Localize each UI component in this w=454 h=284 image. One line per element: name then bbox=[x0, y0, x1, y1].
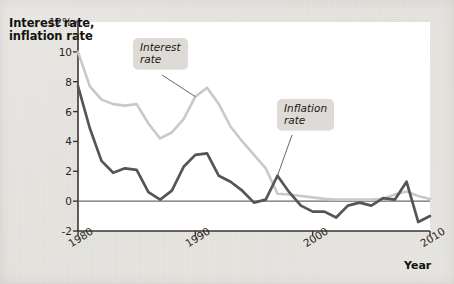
annotation-interest-rate: Interest rate bbox=[133, 38, 188, 69]
y-tick-label-text: 8 bbox=[38, 76, 72, 88]
y-tick-label: 12% bbox=[38, 16, 72, 28]
y-tick-label-text: 0 bbox=[38, 195, 72, 207]
y-tick-label: 2 bbox=[38, 165, 72, 177]
y-tick-label: -2 bbox=[38, 225, 72, 237]
series-lines bbox=[78, 52, 430, 222]
y-tick-label-text: 10 bbox=[38, 46, 72, 58]
y-tick-label: 0 bbox=[38, 195, 72, 207]
y-tick-label: 4 bbox=[38, 135, 72, 147]
y-tick-label-text: 4 bbox=[38, 135, 72, 147]
y-tick-label: 6 bbox=[38, 106, 72, 118]
y-tick-label: 10 bbox=[38, 46, 72, 58]
annotation-inflation-rate: Inflation rate bbox=[277, 99, 334, 130]
figure-panel: Interest rate, inflation rate Year 12%10… bbox=[0, 0, 454, 284]
y-tick-label-text: 2 bbox=[38, 165, 72, 177]
y-tick-label-text: -2 bbox=[38, 225, 72, 237]
y-tick-label: 8 bbox=[38, 76, 72, 88]
y-tick-label-text: 12% bbox=[38, 16, 72, 28]
annotation-leader-lines bbox=[162, 75, 292, 176]
y-tick-label-text: 6 bbox=[38, 106, 72, 118]
